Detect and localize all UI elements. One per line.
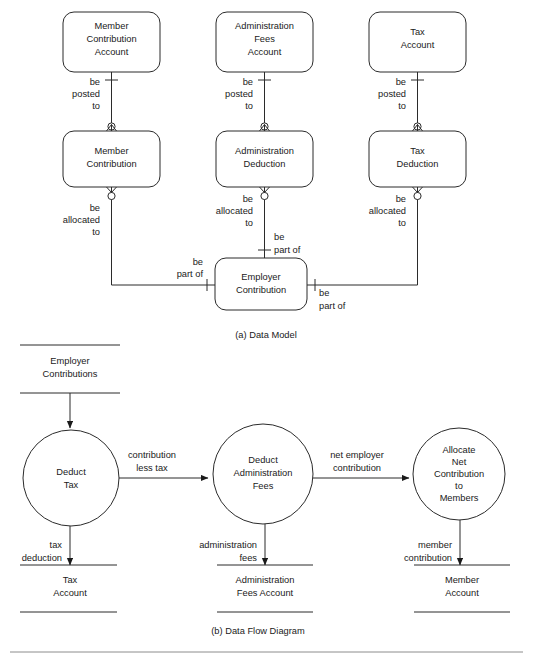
relationship-label-line: posted xyxy=(378,89,406,99)
datastore-administration-fees-account[interactable]: Administration Fees Account xyxy=(217,565,313,612)
entity-administration-fees-account[interactable]: Administration Fees Account xyxy=(216,12,313,72)
flow-tax-deduction: tax deduction xyxy=(22,526,70,565)
flow-label-line: tax xyxy=(50,540,63,550)
flow-contribution-less-tax: contribution less tax xyxy=(119,450,208,478)
relationship-label-line: posted xyxy=(72,89,100,99)
flow-administration-fees: administration fees xyxy=(199,524,265,565)
entity-label-line: Contribution xyxy=(86,34,136,44)
entity-label-line: Member xyxy=(94,21,128,31)
datastore-label-line: Contributions xyxy=(43,369,98,379)
entity-tax-account[interactable]: Tax Account xyxy=(369,12,466,72)
process-label-line: to xyxy=(455,481,463,491)
relationship-label-line: be xyxy=(243,194,253,204)
entity-label-line: Contribution xyxy=(86,159,136,169)
flow-label-line: less tax xyxy=(136,463,168,473)
entity-member-contribution-account[interactable]: Member Contribution Account xyxy=(63,12,160,72)
datastore-label-line: Tax xyxy=(63,575,78,585)
relationship-label-line: posted xyxy=(225,89,253,99)
datastore-tax-account[interactable]: Tax Account xyxy=(20,565,117,612)
entity-administration-deduction[interactable]: Administration Deduction xyxy=(216,131,313,187)
relationship-label-line: be xyxy=(193,257,203,267)
entity-employer-contribution[interactable]: Employer Contribution xyxy=(215,258,307,310)
entity-tax-deduction[interactable]: Tax Deduction xyxy=(369,131,466,187)
figure-canvas: Member Contribution Account Member Contr… xyxy=(0,0,533,666)
relationship-label-line: be xyxy=(243,77,253,87)
relationship-tax-posted-to: be posted to xyxy=(378,72,424,131)
process-label-line: Members xyxy=(440,493,479,503)
entity-label-line: Member xyxy=(94,146,128,156)
relationship-label-line: to xyxy=(398,218,406,228)
entity-label-line: Account xyxy=(95,47,129,57)
relationship-label-line: part of xyxy=(319,301,346,311)
process-label-line: Contribution xyxy=(434,469,484,479)
entity-member-contribution[interactable]: Member Contribution xyxy=(63,131,160,187)
relationship-label-line: to xyxy=(245,218,253,228)
figure-root: Member Contribution Account Member Contr… xyxy=(0,0,533,666)
relationship-label-line: allocated xyxy=(63,215,100,225)
relationship-label-line: part of xyxy=(177,269,204,279)
process-label-line: Deduct xyxy=(56,467,86,477)
relationship-label-line: be xyxy=(396,194,406,204)
process-label-line: Fees xyxy=(253,481,274,491)
relationship-admin-allocated-to: be allocated to be part of xyxy=(216,187,301,258)
datastore-label-line: Member xyxy=(445,575,479,585)
process-label-line: Net xyxy=(452,457,467,467)
flow-member-contribution: member contribution xyxy=(404,520,460,565)
relationship-label-line: to xyxy=(92,227,100,237)
process-allocate-net-contribution[interactable]: Allocate Net Contribution to Members xyxy=(413,428,505,520)
relationship-label-line: be xyxy=(396,77,406,87)
datastore-employer-contributions[interactable]: Employer Contributions xyxy=(20,345,120,393)
process-deduct-administration-fees[interactable]: Deduct Administration Fees xyxy=(213,424,313,524)
process-circle xyxy=(23,430,119,526)
relationship-member-posted-to: be posted to xyxy=(72,72,118,131)
flow-label-line: administration xyxy=(199,540,257,550)
flow-label-line: net employer xyxy=(330,450,384,460)
relationship-label-line: be xyxy=(90,203,100,213)
entity-label-line: Contribution xyxy=(236,285,286,295)
flow-label-line: contribution xyxy=(333,463,381,473)
caption-data-model: (a) Data Model xyxy=(235,330,297,340)
relationship-label-line: allocated xyxy=(216,206,253,216)
relationship-label-line: be xyxy=(90,77,100,87)
entity-box xyxy=(215,258,307,310)
datastore-member-account[interactable]: Member Account xyxy=(414,565,510,612)
flow-label-line: contribution xyxy=(128,450,176,460)
process-label-line: Deduct xyxy=(248,455,278,465)
relationship-member-allocated-to: be allocated to be part of xyxy=(63,187,215,291)
relationship-label-line: be xyxy=(319,288,329,298)
datastore-label-line: Account xyxy=(53,588,87,598)
entity-label-line: Account xyxy=(401,40,435,50)
entity-label-line: Fees xyxy=(254,34,275,44)
process-deduct-tax[interactable]: Deduct Tax xyxy=(23,430,119,526)
flow-label-line: member xyxy=(418,540,452,550)
entity-label-line: Deduction xyxy=(244,159,286,169)
caption-data-flow-diagram: (b) Data Flow Diagram xyxy=(211,626,305,636)
flow-label-line: fees xyxy=(239,553,257,563)
entity-label-line: Account xyxy=(248,47,282,57)
entity-label-line: Administration xyxy=(235,21,294,31)
flow-label-line: deduction xyxy=(22,553,62,563)
relationship-label-line: allocated xyxy=(369,206,406,216)
process-label-line: Administration xyxy=(234,468,293,478)
entity-label-line: Deduction xyxy=(397,159,439,169)
entity-label-line: Administration xyxy=(235,146,294,156)
relationship-label-line: to xyxy=(92,101,100,111)
datastore-label-line: Employer xyxy=(50,356,89,366)
relationship-label-line: part of xyxy=(274,245,301,255)
entity-label-line: Tax xyxy=(410,146,425,156)
relationship-tax-allocated-to: be allocated to be part of xyxy=(307,187,423,311)
relationship-label-line: be xyxy=(274,232,284,242)
datastore-label-line: Administration xyxy=(236,575,295,585)
entity-label-line: Tax xyxy=(410,27,425,37)
flow-label-line: contribution xyxy=(404,553,452,563)
process-label-line: Tax xyxy=(64,480,79,490)
datastore-label-line: Account xyxy=(445,588,479,598)
flow-net-employer-contribution: net employer contribution xyxy=(313,450,409,478)
relationship-admin-posted-to: be posted to xyxy=(225,72,271,131)
entity-label-line: Employer xyxy=(241,272,280,282)
datastore-label-line: Fees Account xyxy=(237,588,294,598)
relationship-label-line: to xyxy=(398,101,406,111)
relationship-label-line: to xyxy=(245,101,253,111)
process-label-line: Allocate xyxy=(442,445,475,455)
